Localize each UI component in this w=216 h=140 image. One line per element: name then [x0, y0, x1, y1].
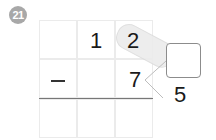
decomposition-blank-box[interactable]	[166, 43, 201, 78]
decomposition-given-part: 5	[174, 82, 186, 108]
